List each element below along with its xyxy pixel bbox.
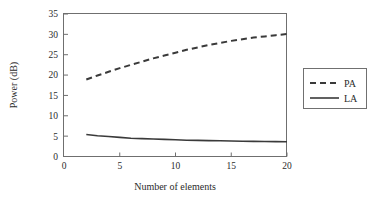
y-tick-label: 0 [53, 152, 58, 162]
y-tick-label: 30 [49, 30, 59, 40]
x-axis-title: Number of elements [134, 181, 216, 192]
line-chart-svg: 05101520253035 05101520 Number of elemen… [0, 0, 376, 197]
chart-figure: 05101520253035 05101520 Number of elemen… [0, 0, 376, 197]
y-tick-label: 35 [49, 9, 59, 19]
x-tick-label: 20 [282, 161, 292, 171]
legend-label-la: LA [344, 93, 358, 104]
y-axis-title: Power (dB) [8, 62, 20, 108]
y-tick-label: 5 [53, 132, 58, 142]
x-tick-label: 15 [227, 161, 237, 171]
y-tick-label: 10 [49, 111, 59, 121]
x-tick-label: 5 [117, 161, 122, 171]
x-tick-label: 10 [171, 161, 181, 171]
y-tick-label: 20 [49, 70, 59, 80]
y-tick-label: 25 [49, 50, 59, 60]
x-tick-label: 0 [62, 161, 67, 171]
legend-label-pa: PA [344, 78, 357, 89]
y-tick-label: 15 [49, 91, 59, 101]
